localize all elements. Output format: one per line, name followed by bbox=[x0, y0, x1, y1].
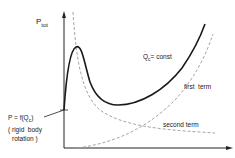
point-label: P = f(Qc) ( rigid body rotation ) bbox=[8, 113, 42, 143]
curve-label-suffix: = const bbox=[151, 53, 172, 60]
x-axis-arrow-icon bbox=[226, 146, 233, 150]
point-pointer-line bbox=[44, 110, 64, 117]
y-axis-label-sub: tot bbox=[41, 22, 48, 28]
second-term-curve bbox=[73, 12, 215, 133]
point-label-close: ) bbox=[31, 114, 33, 121]
point-label-text: P = f(Q bbox=[8, 114, 29, 121]
curve-const-label: ·Qc= const bbox=[143, 53, 172, 62]
qdot-symbol: ·Q bbox=[143, 53, 148, 60]
point-label-line2: ( rigid body bbox=[8, 125, 42, 134]
point-label-line1: P = f(Qc) bbox=[8, 113, 42, 125]
first-term-label: first term bbox=[184, 83, 211, 90]
y-axis-arrow-icon bbox=[62, 11, 66, 18]
total-power-curve bbox=[64, 24, 205, 110]
y-axis-label: Ptot bbox=[36, 17, 48, 28]
second-term-label: second term bbox=[163, 121, 199, 128]
curve-label-main: Q bbox=[143, 53, 148, 60]
diagram-canvas: Ptot ·Qc= const first term second term P… bbox=[0, 0, 235, 158]
point-label-line3: rotation ) bbox=[8, 134, 42, 143]
